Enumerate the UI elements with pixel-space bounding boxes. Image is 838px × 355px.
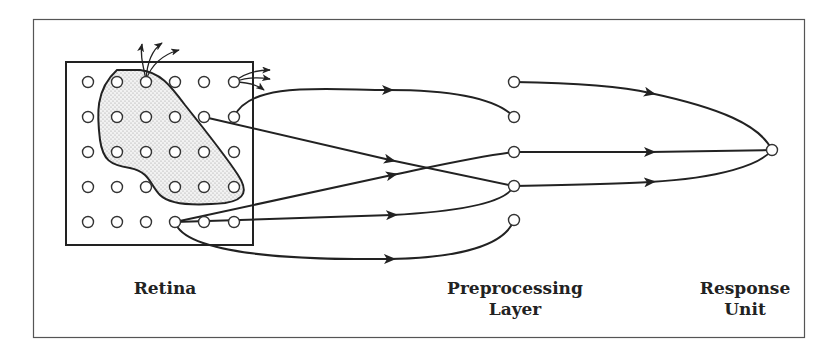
retina-node <box>170 182 181 193</box>
retina-node <box>199 217 210 228</box>
retina-node <box>199 112 210 123</box>
preprocessing-node <box>509 112 520 123</box>
retina-node <box>170 147 181 158</box>
connection-p0-response <box>514 82 650 93</box>
retina-node <box>141 77 152 88</box>
retina-node <box>112 147 123 158</box>
preprocessing-layer-label: Preprocessing Layer <box>440 278 590 320</box>
preprocessing-label-line1: Preprocessing <box>440 278 590 299</box>
response-label-line1: Response <box>690 278 800 299</box>
retina-node <box>199 77 210 88</box>
preprocessing-node <box>509 147 520 158</box>
retina-node <box>199 147 210 158</box>
retina-node <box>83 77 94 88</box>
preprocessing-node <box>509 77 520 88</box>
retina-node <box>83 217 94 228</box>
retina-node <box>199 182 210 193</box>
retina-node <box>229 217 240 228</box>
retina-node <box>141 217 152 228</box>
retina-node <box>170 217 181 228</box>
response-node <box>767 145 778 156</box>
retina-label: Retina <box>120 278 210 299</box>
connection-r4c3-p4 <box>175 222 390 259</box>
preprocessing-label-line2: Layer <box>440 299 590 320</box>
retina-node <box>83 147 94 158</box>
retina-node <box>229 77 240 88</box>
preprocessing-node <box>509 215 520 226</box>
retina-node <box>170 112 181 123</box>
connection-p3-response <box>514 182 650 186</box>
response-unit-label: Response Unit <box>690 278 800 320</box>
preprocessing-nodes <box>509 77 520 226</box>
retina-node <box>112 217 123 228</box>
preprocessing-to-response-connections <box>514 82 772 186</box>
preprocessing-node <box>509 181 520 192</box>
retina-node <box>112 182 123 193</box>
retina-node <box>112 77 123 88</box>
connection-r1c5-p1 <box>234 89 388 117</box>
retina-node <box>141 112 152 123</box>
retina-node <box>229 112 240 123</box>
retina-node <box>141 147 152 158</box>
retina-node <box>83 182 94 193</box>
response-label-line2: Unit <box>690 299 800 320</box>
retina-node <box>83 112 94 123</box>
retina-label-text: Retina <box>120 278 210 299</box>
retina-node <box>141 182 152 193</box>
retina-node <box>229 147 240 158</box>
retina-node <box>112 112 123 123</box>
retina-node <box>170 77 181 88</box>
retina-node <box>229 182 240 193</box>
